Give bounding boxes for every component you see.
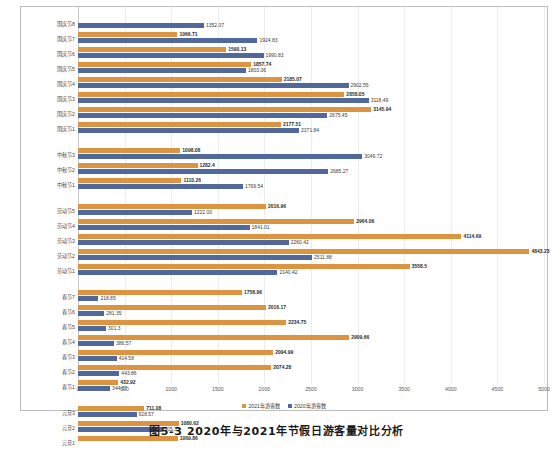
bar-2021[interactable]: 3558.5 bbox=[78, 264, 410, 269]
bar-row[interactable]: 中秋节11110.261769.54 bbox=[78, 176, 544, 191]
legend-item[interactable]: 2020年游客数 bbox=[288, 402, 326, 409]
bar-value-2021: 1066.71 bbox=[179, 31, 197, 37]
bar-value-2021: 2016.17 bbox=[268, 304, 286, 310]
bar-2020[interactable]: 1222.00 bbox=[78, 210, 192, 215]
bar-2020[interactable]: 218.85 bbox=[78, 296, 98, 301]
bar-row[interactable]: 国庆节61590.131990.83 bbox=[78, 45, 544, 60]
bar-row[interactable]: 国庆节42185.072902.55 bbox=[78, 75, 544, 90]
legend-item[interactable]: 2021年游客数 bbox=[242, 402, 280, 409]
category-label: 国庆节4 bbox=[57, 79, 75, 86]
bar-2021[interactable]: 4843.23 bbox=[78, 249, 529, 254]
bar-value-2021: 4114.69 bbox=[463, 233, 481, 239]
bar-2020[interactable]: 1352.07 bbox=[78, 23, 204, 28]
bar-2020[interactable]: 414.58 bbox=[78, 356, 117, 361]
bar-2021[interactable]: 2074.28 bbox=[78, 365, 271, 370]
bar-2020[interactable]: 281.35 bbox=[78, 311, 104, 316]
x-axis-tick: 2500 bbox=[305, 386, 317, 392]
bar-2021[interactable]: 2234.75 bbox=[78, 320, 286, 325]
category-label: 春节7 bbox=[62, 292, 75, 299]
bar-2021[interactable]: 432.92 bbox=[78, 380, 118, 385]
bar-2021[interactable]: 2016.17 bbox=[78, 305, 266, 310]
bar-2021[interactable]: 1098.08 bbox=[78, 148, 180, 153]
category-label: 春节3 bbox=[62, 352, 75, 359]
bar-group-中秋节: 中秋节31098.083049.72中秋节21282.42685.27中秋节11… bbox=[78, 146, 544, 191]
bar-2020[interactable]: 3118.49 bbox=[78, 98, 369, 103]
bar-value-2020: 386.57 bbox=[116, 340, 131, 346]
bar-2021[interactable]: 2094.99 bbox=[78, 350, 273, 355]
bar-2021[interactable]: 2185.07 bbox=[78, 77, 282, 82]
bar-row[interactable]: 春节42909.66386.57 bbox=[78, 333, 544, 348]
bar-2020[interactable]: 3049.72 bbox=[78, 154, 362, 159]
bar-row[interactable]: 中秋节31098.083049.72 bbox=[78, 146, 544, 161]
bar-2021[interactable]: 1282.4 bbox=[78, 163, 198, 168]
category-label: 国庆节8 bbox=[57, 19, 75, 26]
bar-row[interactable]: 国庆节32858.053118.49 bbox=[78, 90, 544, 105]
bar-2021[interactable]: 1590.13 bbox=[78, 47, 226, 52]
bar-2020[interactable]: 2675.45 bbox=[78, 113, 327, 118]
bar-2020[interactable]: 1803.06 bbox=[78, 68, 246, 73]
x-axis-tick: 4500 bbox=[492, 386, 504, 392]
bar-row[interactable]: 国庆节51857.741803.06 bbox=[78, 60, 544, 75]
bar-row[interactable]: 劳动节24843.232511.88 bbox=[78, 247, 544, 262]
legend-label: 2021年游客数 bbox=[248, 402, 280, 409]
bar-row[interactable]: 劳动节42964.061841.01 bbox=[78, 217, 544, 232]
bar-value-2021: 2177.51 bbox=[283, 121, 301, 127]
bar-value-2020: 2140.42 bbox=[279, 269, 297, 275]
bar-2021[interactable]: 2177.51 bbox=[78, 122, 281, 127]
bar-row[interactable]: 国庆节23145.942675.45 bbox=[78, 105, 544, 120]
category-label: 劳动节4 bbox=[57, 221, 75, 228]
bar-row[interactable]: 国庆节81352.07 bbox=[78, 15, 544, 30]
category-label: 元旦1 bbox=[62, 438, 75, 445]
bar-row[interactable]: 春节32094.99414.58 bbox=[78, 348, 544, 363]
bar-row[interactable]: 春节71758.96218.85 bbox=[78, 288, 544, 303]
bar-2021[interactable]: 4114.69 bbox=[78, 234, 461, 239]
bar-2020[interactable]: 1990.83 bbox=[78, 53, 264, 58]
bar-row[interactable]: 中秋节21282.42685.27 bbox=[78, 161, 544, 176]
bar-2020[interactable]: 1769.54 bbox=[78, 184, 243, 189]
bar-2020[interactable]: 2902.55 bbox=[78, 83, 349, 88]
bar-2021[interactable]: 1857.74 bbox=[78, 62, 251, 67]
bar-2020[interactable]: 443.86 bbox=[78, 371, 119, 376]
bar-row[interactable]: 劳动节52016.961222.00 bbox=[78, 202, 544, 217]
bar-value-2020: 1924.83 bbox=[259, 37, 277, 43]
bar-2020[interactable]: 2260.42 bbox=[78, 240, 289, 245]
bar-row[interactable]: 春节52234.75301.3 bbox=[78, 318, 544, 333]
bar-row[interactable]: 春节22074.28443.86 bbox=[78, 363, 544, 378]
bar-2021[interactable]: 2964.06 bbox=[78, 219, 354, 224]
bar-2020[interactable]: 386.57 bbox=[78, 341, 114, 346]
bar-2020[interactable]: 2685.27 bbox=[78, 169, 328, 174]
bar-row[interactable]: 国庆节12177.512371.84 bbox=[78, 120, 544, 135]
bar-2021[interactable]: 2858.05 bbox=[78, 92, 344, 97]
bar-2020[interactable]: 1924.83 bbox=[78, 38, 257, 43]
category-label: 春节6 bbox=[62, 307, 75, 314]
bar-2021[interactable]: 1110.26 bbox=[78, 178, 181, 183]
bar-value-2020: 1841.01 bbox=[252, 224, 270, 230]
bar-2020[interactable]: 2511.88 bbox=[78, 255, 312, 260]
bar-2021[interactable]: 2909.66 bbox=[78, 335, 349, 340]
category-label: 国庆节7 bbox=[57, 34, 75, 41]
x-axis-tick: 500 bbox=[120, 386, 129, 392]
bar-row[interactable]: 国庆节71066.711924.83 bbox=[78, 30, 544, 45]
bar-2020[interactable]: 2371.84 bbox=[78, 128, 299, 133]
bar-value-2020: 2260.42 bbox=[291, 239, 309, 245]
bar-value-2021: 1590.13 bbox=[228, 46, 246, 52]
bar-row[interactable]: 劳动节34114.692260.42 bbox=[78, 232, 544, 247]
bar-2021[interactable]: 2016.96 bbox=[78, 204, 266, 209]
figure-caption: 图5-3 2020年与2021年节假日游客量对比分析 bbox=[0, 424, 553, 437]
bar-row[interactable]: 劳动节13558.52140.42 bbox=[78, 262, 544, 277]
legend-label: 2020年游客数 bbox=[294, 402, 326, 409]
bar-2020[interactable]: 2140.42 bbox=[78, 270, 277, 275]
x-axis-tick: 1500 bbox=[212, 386, 224, 392]
bar-row[interactable]: 春节62016.17281.35 bbox=[78, 303, 544, 318]
bar-2020[interactable]: 1841.01 bbox=[78, 225, 250, 230]
bar-value-2021: 2964.06 bbox=[356, 218, 374, 224]
bar-2021[interactable]: 1066.71 bbox=[78, 32, 177, 37]
category-label: 春节2 bbox=[62, 367, 75, 374]
bar-2021[interactable]: 3145.94 bbox=[78, 107, 371, 112]
x-axis-tick: 5000 bbox=[538, 386, 550, 392]
bar-value-2021: 2858.05 bbox=[346, 91, 364, 97]
bar-2020[interactable]: 628.57 bbox=[78, 412, 137, 417]
bar-2021[interactable]: 1758.96 bbox=[78, 290, 242, 295]
bar-2020[interactable]: 301.3 bbox=[78, 326, 106, 331]
